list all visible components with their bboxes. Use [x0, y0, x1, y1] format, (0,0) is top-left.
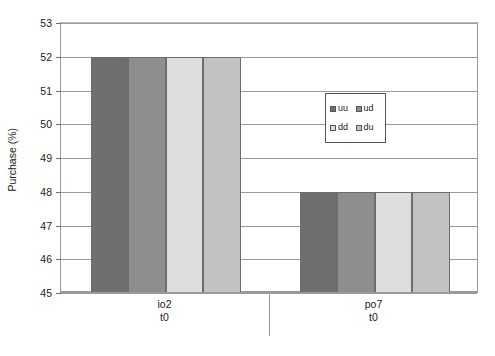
- legend-label: uu: [338, 104, 348, 113]
- chart-canvas: Purchase (%) 454647484950515253 io2t0po7…: [0, 0, 495, 356]
- y-axis-tick: [56, 158, 61, 159]
- y-axis-tick: [56, 57, 61, 58]
- legend-label: ud: [364, 104, 374, 113]
- legend-item: uu: [330, 104, 356, 113]
- category-label: po7t0: [269, 298, 478, 324]
- legend-swatch-icon: [356, 106, 362, 112]
- y-axis-tick: [56, 259, 61, 260]
- y-axis-tick: [56, 226, 61, 227]
- y-axis-tick-label: 46: [40, 254, 52, 265]
- legend-swatch-icon: [330, 125, 336, 131]
- bar: [300, 192, 338, 293]
- bar: [91, 57, 129, 293]
- legend-item: du: [356, 123, 382, 132]
- category-axis: io2t0po7t0: [60, 292, 478, 336]
- legend-swatch-icon: [330, 106, 336, 112]
- bar: [412, 192, 450, 293]
- y-axis-title: Purchase (%): [6, 128, 18, 192]
- bar: [128, 57, 166, 293]
- category-label-secondary: t0: [60, 311, 269, 324]
- legend-item: dd: [330, 123, 356, 132]
- y-axis-tick-label: 47: [40, 220, 52, 231]
- legend-item: ud: [356, 104, 382, 113]
- bar: [337, 192, 375, 293]
- y-axis-tick-label: 52: [40, 52, 52, 63]
- y-axis-tick-label: 51: [40, 85, 52, 96]
- category-label-primary: io2: [60, 298, 269, 311]
- y-axis-tick-label: 50: [40, 119, 52, 130]
- y-axis-tick-label: 45: [40, 288, 52, 299]
- bar: [166, 57, 204, 293]
- legend-swatch-icon: [356, 125, 362, 131]
- y-axis-tick-label: 53: [40, 18, 52, 29]
- y-axis-tick: [56, 23, 61, 24]
- legend-label: du: [364, 123, 374, 132]
- category-label: io2t0: [60, 298, 269, 324]
- category-label-primary: po7: [269, 298, 478, 311]
- plot-area: 454647484950515253: [60, 22, 478, 292]
- category-label-secondary: t0: [269, 311, 478, 324]
- chart-legend: uuuddddu: [325, 93, 386, 143]
- bar: [375, 192, 413, 293]
- y-axis-tick: [56, 124, 61, 125]
- legend-label: dd: [338, 123, 348, 132]
- gridline: 53: [61, 23, 477, 24]
- category-separator: [269, 292, 270, 336]
- y-axis-tick: [56, 192, 61, 193]
- y-axis-tick-label: 48: [40, 187, 52, 198]
- y-axis-tick-label: 49: [40, 153, 52, 164]
- bar: [203, 57, 241, 293]
- y-axis-tick: [56, 91, 61, 92]
